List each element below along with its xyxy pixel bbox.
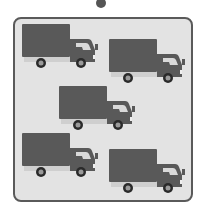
truck-2 <box>107 37 183 81</box>
truck-icon <box>20 22 98 68</box>
top-dot <box>96 0 106 8</box>
truck-4 <box>20 131 96 175</box>
truck-icon <box>107 37 185 83</box>
truck-1 <box>20 22 96 66</box>
truck-3 <box>57 84 133 128</box>
truck-icon <box>107 147 185 193</box>
truck-5 <box>107 147 183 191</box>
truck-icon <box>57 84 135 130</box>
truck-icon <box>20 131 98 177</box>
